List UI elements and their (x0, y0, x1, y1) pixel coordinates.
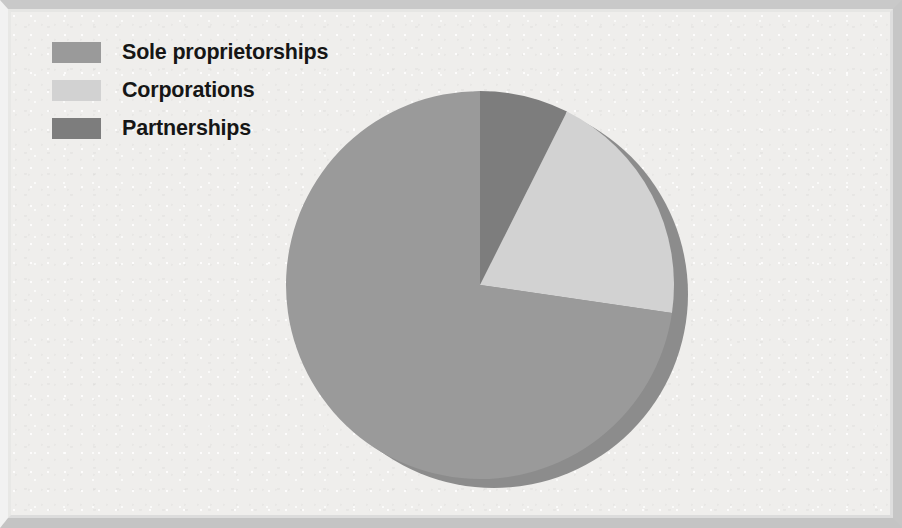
legend-item-sole-proprietorships[interactable]: Sole proprietorships (52, 36, 328, 68)
legend-label-corporations: Corporations (122, 78, 255, 103)
legend-item-corporations[interactable]: Corporations (52, 74, 328, 106)
legend-swatch-partnerships (52, 118, 101, 139)
pie-chart-figure: 7.4% 19.9% 72.6% Sole proprietorships Co… (0, 0, 902, 528)
legend-swatch-sole-proprietorships (52, 42, 101, 63)
pie-slices-group (286, 91, 674, 479)
chart-legend: Sole proprietorships Corporations Partne… (52, 36, 328, 150)
legend-label-partnerships: Partnerships (122, 116, 251, 141)
legend-item-partnerships[interactable]: Partnerships (52, 112, 328, 144)
legend-label-sole-proprietorships: Sole proprietorships (122, 40, 328, 65)
legend-swatch-corporations (52, 80, 101, 101)
